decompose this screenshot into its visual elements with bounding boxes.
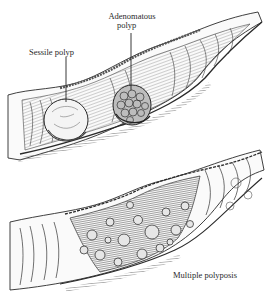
polyp-illustration-figure: Sessile polyp Adenomatous polyp Multiple…	[0, 0, 268, 306]
sessile-polyp	[44, 99, 88, 141]
multiple-polyposis-label: Multiple polyposis	[173, 271, 237, 280]
sessile-polyp-label: Sessile polyp	[29, 48, 74, 57]
adenomatous-polyp	[113, 85, 151, 125]
adenomatous-label-line2: polyp	[106, 21, 158, 30]
lower-colon-segment	[10, 150, 264, 290]
upper-colon-segment	[8, 12, 262, 160]
adenomatous-polyp-label: Adenomatous polyp	[106, 12, 158, 30]
colon-drawing	[0, 0, 268, 306]
